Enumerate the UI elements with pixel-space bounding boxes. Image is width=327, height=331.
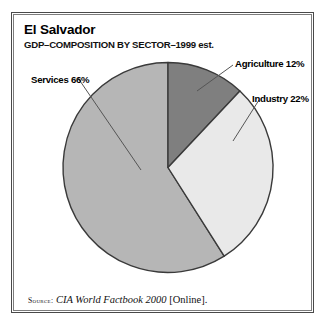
figure-panel: El Salvador GDP–COMPOSITION BY SECTOR–19… [0,0,327,331]
pie-label-services: Services 66% [31,74,89,85]
pie-label-agriculture: Agriculture 12% [235,58,304,69]
pie-chart [0,0,327,331]
source-label: Source: [28,296,53,305]
source-line: Source: CIA World Factbook 2000 [Online]… [28,289,207,307]
pie-chart-svg [0,0,327,331]
pie-label-industry: Industry 22% [252,93,309,104]
source-publication-title: CIA World Factbook 2000 [53,294,169,305]
source-medium: [Online]. [169,294,207,305]
